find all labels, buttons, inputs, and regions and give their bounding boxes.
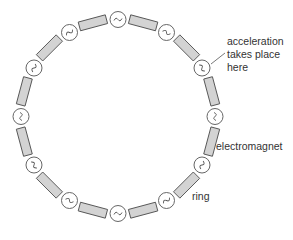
electromagnet-segment	[204, 77, 220, 106]
acceleration-label-line3: here	[227, 61, 248, 73]
electromagnet-segment	[36, 172, 62, 198]
accelerator-icon	[207, 109, 223, 125]
electromagnet-segment	[78, 202, 107, 218]
electromagnet-label: electromagnet	[216, 140, 283, 152]
accelerator-icon	[26, 157, 42, 173]
accelerator-icon	[62, 193, 78, 209]
accelerator-icon	[194, 157, 210, 173]
electromagnet-segment	[174, 35, 200, 61]
electromagnet-segment	[16, 127, 32, 156]
accelerator-icon	[26, 60, 42, 76]
acceleration-leader-line	[211, 53, 225, 64]
accelerator-icon	[159, 24, 175, 40]
accelerator-icon	[110, 12, 126, 28]
acceleration-label-line2: takes place	[227, 48, 280, 60]
electromagnet-segment	[36, 35, 62, 61]
electromagnet-segment	[78, 15, 107, 31]
electromagnet-segment	[16, 77, 32, 106]
accelerator-icon	[194, 60, 210, 76]
electromagnet-segment	[128, 202, 157, 218]
accelerator-icon	[62, 24, 78, 40]
accelerator-icon	[110, 206, 126, 222]
acceleration-label-line1: acceleration	[227, 35, 284, 47]
electromagnet-segment	[128, 15, 157, 31]
accelerator-ring-diagram: acceleration takes place here electromag…	[0, 0, 293, 240]
accelerator-icon	[159, 193, 175, 209]
accelerator-icon	[13, 109, 29, 125]
ring-label: ring	[192, 190, 210, 202]
